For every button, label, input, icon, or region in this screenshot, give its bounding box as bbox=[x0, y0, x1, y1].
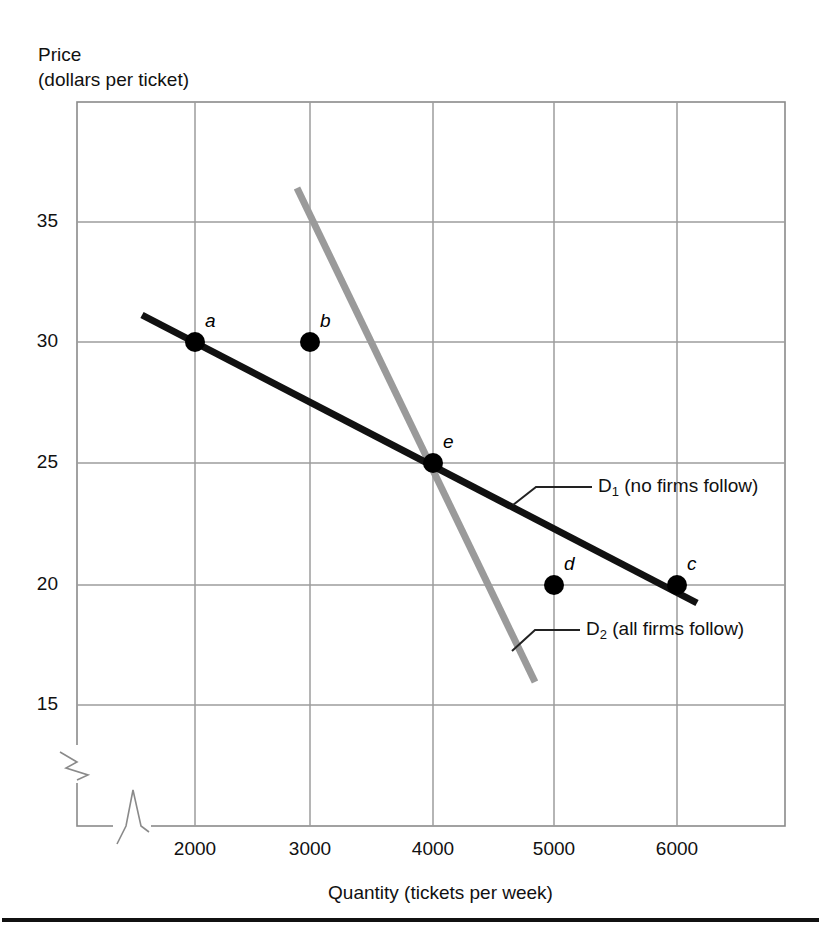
data-point-a[interactable] bbox=[185, 332, 205, 352]
data-point-e[interactable] bbox=[423, 453, 443, 473]
data-point-d[interactable] bbox=[544, 575, 564, 595]
d1-label-base: D bbox=[598, 475, 612, 496]
d2-label-subscript: 2 bbox=[600, 627, 607, 642]
d2-label-suffix: (all firms follow) bbox=[607, 618, 744, 639]
d2-label-base: D bbox=[586, 618, 600, 639]
data-point-label-e: e bbox=[443, 431, 454, 453]
data-point-label-b: b bbox=[320, 310, 331, 332]
d2-curve-label: D2 (all firms follow) bbox=[586, 618, 744, 640]
data-point-c[interactable] bbox=[667, 575, 687, 595]
chart-figure: Price (dollars per ticket) Quantity (tic… bbox=[0, 0, 821, 935]
data-point-label-d: d bbox=[564, 553, 575, 575]
data-point-label-c: c bbox=[687, 553, 697, 575]
d1-label-suffix: (no firms follow) bbox=[619, 475, 758, 496]
d1-curve-label: D1 (no firms follow) bbox=[598, 475, 758, 497]
bottom-horizontal-rule bbox=[2, 918, 819, 922]
d1-label-subscript: 1 bbox=[612, 484, 619, 499]
plot-canvas bbox=[0, 0, 821, 935]
data-point-label-a: a bbox=[205, 310, 216, 332]
data-point-b[interactable] bbox=[300, 332, 320, 352]
y-axis-break-icon bbox=[60, 745, 94, 783]
